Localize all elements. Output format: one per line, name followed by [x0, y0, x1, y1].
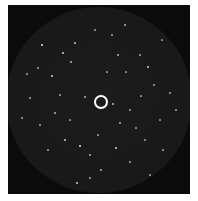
star [129, 109, 130, 110]
star [140, 95, 141, 96]
star [139, 54, 140, 55]
star [70, 61, 71, 62]
star [54, 112, 55, 113]
target-marker-ring [94, 95, 108, 109]
star [106, 71, 107, 72]
star [117, 54, 118, 55]
star [59, 94, 60, 95]
star [41, 44, 43, 46]
star [79, 145, 81, 147]
star [26, 73, 27, 74]
star [69, 119, 70, 120]
star [124, 24, 125, 25]
star [76, 182, 78, 184]
star [135, 127, 136, 128]
star [162, 149, 163, 150]
star [129, 161, 130, 162]
star [161, 39, 162, 40]
star [74, 42, 75, 43]
star [97, 134, 98, 135]
star [111, 34, 112, 35]
star [51, 75, 52, 76]
star [21, 117, 22, 118]
star [89, 177, 90, 178]
star [115, 147, 116, 148]
star [144, 139, 145, 140]
star [89, 154, 90, 155]
star [159, 119, 160, 120]
star [169, 92, 170, 93]
star [47, 149, 48, 150]
star [119, 122, 120, 123]
star [84, 96, 85, 97]
star [29, 97, 30, 98]
star [100, 169, 101, 170]
star [39, 124, 40, 125]
star [125, 71, 126, 72]
star [64, 139, 66, 141]
star [62, 52, 63, 53]
star [153, 84, 154, 85]
star [112, 103, 113, 104]
star [175, 109, 176, 110]
star [94, 29, 95, 30]
star [37, 67, 38, 68]
star [147, 66, 149, 68]
star-field-image [8, 5, 190, 194]
star [149, 174, 150, 175]
